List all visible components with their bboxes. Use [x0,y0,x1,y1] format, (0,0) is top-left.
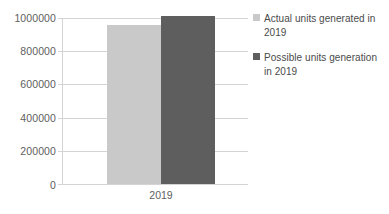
legend-swatch-icon [253,14,260,21]
bar-actual-units [107,25,161,184]
y-axis-tick-label: 400000 [0,113,56,124]
plot-area [62,18,248,184]
bar-possible-units [161,16,215,184]
legend-label: Actual units generated in 2019 [264,12,385,39]
y-axis-tick-label: 800000 [0,46,56,57]
chart-legend: Actual units generated in 2019 Possible … [253,12,385,90]
y-axis-labels: 1000000 800000 600000 400000 200000 0 [0,0,56,214]
gridline [62,184,248,185]
y-axis-tick-label: 200000 [0,146,56,157]
bar-chart: 1000000 800000 600000 400000 200000 0 20… [0,0,389,214]
legend-swatch-icon [253,53,260,60]
y-axis-tick-label: 1000000 [0,13,56,24]
legend-item-possible: Possible units generation in 2019 [253,51,385,78]
x-axis-tick-label: 2019 [107,190,215,201]
y-axis-tick-label: 600000 [0,79,56,90]
y-axis-tick-label: 0 [0,180,56,191]
gridline [62,18,248,19]
legend-item-actual: Actual units generated in 2019 [253,12,385,39]
legend-label: Possible units generation in 2019 [264,51,385,78]
